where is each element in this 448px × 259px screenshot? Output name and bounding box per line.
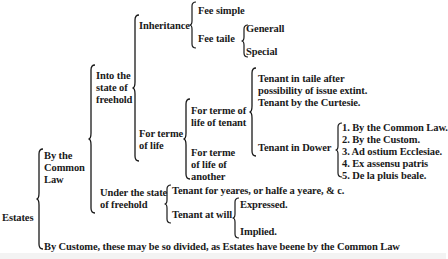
tenant-at-will-brace-icon — [232, 197, 240, 239]
under-freehold-brace-icon — [164, 184, 172, 224]
expressed-label: Expressed. — [240, 199, 288, 211]
common-law-brace-icon — [88, 64, 96, 214]
tenant-in-taile-text: Tenant in taile after possibility of iss… — [258, 73, 367, 109]
terme-of-life-brace-icon — [183, 98, 191, 180]
tenant-for-yeares-label: Tenant for yeares, or halfe a yeare, & c… — [172, 185, 344, 197]
under-freehold-label: Under the state of freehold — [100, 187, 167, 211]
inheritance-brace-icon — [189, 1, 197, 49]
dower-items-list: 1. By the Common Law. 2. By the Custom. … — [342, 122, 448, 182]
life-of-tenant-label: For terme of life of tenant — [191, 105, 246, 129]
life-of-tenant-brace-icon — [249, 67, 257, 157]
fee-simple-label: Fee simple — [198, 5, 245, 17]
tenant-at-will-label: Tenant at will — [172, 209, 232, 221]
estates-brace-icon — [36, 148, 44, 250]
life-of-another-label: For terme of life of another — [191, 147, 235, 183]
inheritance-label: Inheritance — [139, 20, 190, 32]
terme-of-life-label: For terme of life — [139, 128, 183, 152]
implied-label: Implied. — [240, 226, 277, 238]
tenant-in-dower-label: Tenant in Dower — [258, 142, 331, 154]
bottom-band — [0, 253, 446, 259]
fee-taile-label: Fee taile — [198, 33, 235, 45]
common-law-label: By the Common Law — [44, 150, 85, 186]
generall-label: Generall — [246, 23, 284, 35]
estates-label: Estates — [2, 212, 33, 224]
freehold-label: Into the state of freehold — [96, 70, 132, 106]
special-label: Special — [246, 46, 277, 58]
custom-label: By Custome, these may be so divided, as … — [44, 241, 400, 253]
